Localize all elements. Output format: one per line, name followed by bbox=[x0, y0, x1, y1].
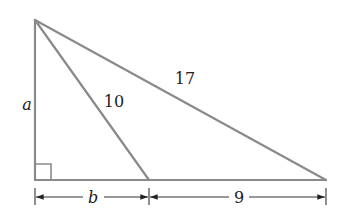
triangle-lines bbox=[35, 20, 326, 180]
label-a: a bbox=[22, 95, 32, 114]
dimension-lines bbox=[35, 188, 326, 205]
label-b: b bbox=[88, 188, 98, 207]
labels: a 10 17 b 9 bbox=[22, 69, 244, 207]
right-triangle-diagram: a 10 17 b 9 bbox=[0, 0, 345, 221]
label-17: 17 bbox=[175, 69, 195, 88]
cevian-10 bbox=[35, 20, 149, 180]
label-9: 9 bbox=[234, 188, 244, 207]
hypotenuse-17 bbox=[35, 20, 326, 180]
right-angle-marker bbox=[35, 164, 51, 180]
label-10: 10 bbox=[104, 92, 124, 111]
